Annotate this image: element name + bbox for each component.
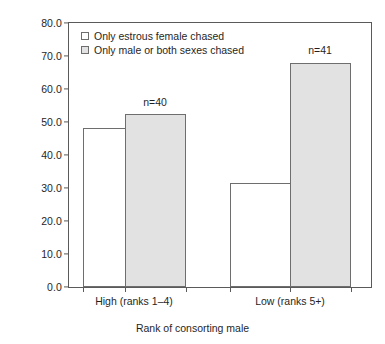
legend-swatch-filled-icon [81,46,89,54]
y-tick-70: 70.0 [41,50,69,62]
bar-high-male-or-both [125,114,186,287]
legend-label-estrous-female: Only estrous female chased [94,30,224,42]
plot-area: 80.0 70.0 60.0 50.0 40.0 30.0 20.0 10.0 … [68,22,372,288]
x-tickmark-6 [351,287,352,292]
y-tick-40: 40.0 [41,149,69,161]
x-tickmark-5 [290,287,291,292]
legend-item-estrous-female: Only estrous female chased [81,30,244,42]
x-tickmark-1 [83,287,84,292]
x-tickmark-2 [125,287,126,292]
x-tickmark-3 [186,287,187,292]
y-tick-80: 80.0 [41,17,69,29]
x-tick-label-high: High (ranks 1–4) [95,295,173,307]
annotation-n-low: n=41 [308,44,332,56]
y-tick-10: 10.0 [41,248,69,260]
bar-chart-figure: % of approaches per consortships 80.0 70… [0,0,385,344]
y-tick-30: 30.0 [41,182,69,194]
bar-low-estrous-female [230,183,291,287]
y-tick-60: 60.0 [41,83,69,95]
bar-low-male-or-both [290,63,351,287]
legend-swatch-open-icon [81,32,89,40]
bar-high-estrous-female [83,128,126,287]
x-axis-title: Rank of consorting male [0,322,385,334]
x-tickmark-4 [230,287,231,292]
legend-item-male-or-both: Only male or both sexes chased [81,44,244,56]
y-tick-0: 0.0 [47,281,69,293]
legend-label-male-or-both: Only male or both sexes chased [94,44,244,56]
y-tick-20: 20.0 [41,215,69,227]
annotation-n-high: n=40 [143,96,167,108]
x-tick-label-low: Low (ranks 5+) [255,295,325,307]
legend: Only estrous female chased Only male or … [81,30,244,56]
y-tick-50: 50.0 [41,116,69,128]
